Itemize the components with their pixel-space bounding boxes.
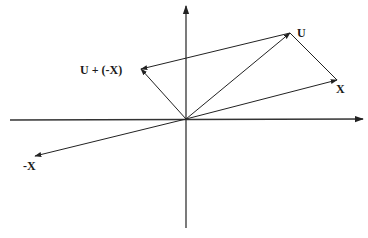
vector-diagram: U X -X U + (-X) [0, 0, 368, 238]
label-u-plus-neg-x: U + (-X) [80, 63, 122, 77]
label-neg-x: -X [23, 159, 36, 173]
vector-x [186, 80, 337, 119]
vector-neg-x [35, 119, 186, 156]
label-x: X [336, 82, 345, 96]
vector-difference-from-origin [141, 69, 186, 119]
segment-u-to-x [290, 33, 337, 80]
label-u: U [297, 26, 306, 40]
